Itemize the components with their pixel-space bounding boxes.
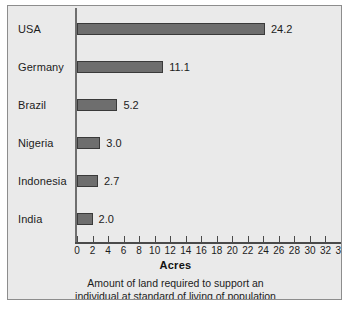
x-axis-tick-label: 4 xyxy=(105,245,111,256)
x-axis-tick xyxy=(232,236,233,242)
bar-row: Indonesia2.7 xyxy=(8,162,342,200)
x-axis-tick-label: 10 xyxy=(149,245,160,256)
x-axis-tick-label: 2 xyxy=(90,245,96,256)
x-axis-tick xyxy=(279,236,280,242)
x-axis-tick xyxy=(186,236,187,242)
x-axis-tick-label: 32 xyxy=(320,245,331,256)
x-axis-tick xyxy=(155,236,156,242)
caption-line-2: individual at standard of living of popu… xyxy=(8,290,342,301)
x-axis-tick xyxy=(263,236,264,242)
x-axis-tick-label: 0 xyxy=(74,245,80,256)
chart-caption: Amount of land required to support an in… xyxy=(8,277,342,300)
x-axis-tick-label: 26 xyxy=(273,245,284,256)
x-axis-line xyxy=(75,242,341,244)
x-axis-tick-label: 22 xyxy=(242,245,253,256)
x-axis-tick-label: 18 xyxy=(211,245,222,256)
bar xyxy=(77,23,265,35)
bar xyxy=(77,99,117,111)
x-axis-tick xyxy=(310,236,311,242)
x-axis-tick xyxy=(77,236,78,242)
x-axis-tick xyxy=(93,236,94,242)
bar-row: Nigeria3.0 xyxy=(8,124,342,162)
bar xyxy=(77,175,98,187)
category-label: USA xyxy=(18,23,41,35)
bar-value-label: 2.0 xyxy=(99,213,114,225)
category-label: Brazil xyxy=(18,99,46,111)
bar-value-label: 3.0 xyxy=(106,137,121,149)
x-axis-tick xyxy=(170,236,171,242)
x-axis-tick-label: 14 xyxy=(180,245,191,256)
category-label: Nigeria xyxy=(18,137,54,149)
x-axis-tick-label: 20 xyxy=(227,245,238,256)
x-axis-tick-label: 16 xyxy=(196,245,207,256)
chart-figure: USA24.2Germany11.1Brazil5.2Nigeria3.0Ind… xyxy=(7,5,342,300)
bar xyxy=(77,61,163,73)
x-axis-tick xyxy=(108,236,109,242)
x-axis-tick-label: 34 xyxy=(335,245,342,256)
bar-value-label: 24.2 xyxy=(271,23,292,35)
x-axis-tick xyxy=(341,236,342,242)
x-axis-tick-label: 8 xyxy=(136,245,142,256)
x-axis-tick-label: 30 xyxy=(304,245,315,256)
caption-line-1: Amount of land required to support an xyxy=(8,277,342,290)
x-axis-tick xyxy=(124,236,125,242)
x-axis-tick-label: 6 xyxy=(121,245,127,256)
bar-row: India2.0 xyxy=(8,200,342,238)
bar-value-label: 11.1 xyxy=(169,61,190,73)
bar-row: USA24.2 xyxy=(8,10,342,48)
x-axis-tick-label: 12 xyxy=(165,245,176,256)
bar-value-label: 5.2 xyxy=(123,99,138,111)
bar-row: Germany11.1 xyxy=(8,48,342,86)
x-axis-tick xyxy=(201,236,202,242)
category-label: Germany xyxy=(18,61,64,73)
bar xyxy=(77,213,93,225)
category-label: India xyxy=(18,213,42,225)
bar-row: Brazil5.2 xyxy=(8,86,342,124)
plot-area: USA24.2Germany11.1Brazil5.2Nigeria3.0Ind… xyxy=(8,6,342,242)
bar-value-label: 2.7 xyxy=(104,175,119,187)
x-axis-tick-label: 28 xyxy=(289,245,300,256)
x-axis-tick xyxy=(217,236,218,242)
x-axis-tick xyxy=(294,236,295,242)
x-axis-tick xyxy=(248,236,249,242)
x-axis-tick-label: 24 xyxy=(258,245,269,256)
x-axis-tick xyxy=(325,236,326,242)
category-label: Indonesia xyxy=(18,175,67,187)
x-axis-tick xyxy=(139,236,140,242)
bar xyxy=(77,137,100,149)
x-axis-title: Acres xyxy=(8,259,342,271)
